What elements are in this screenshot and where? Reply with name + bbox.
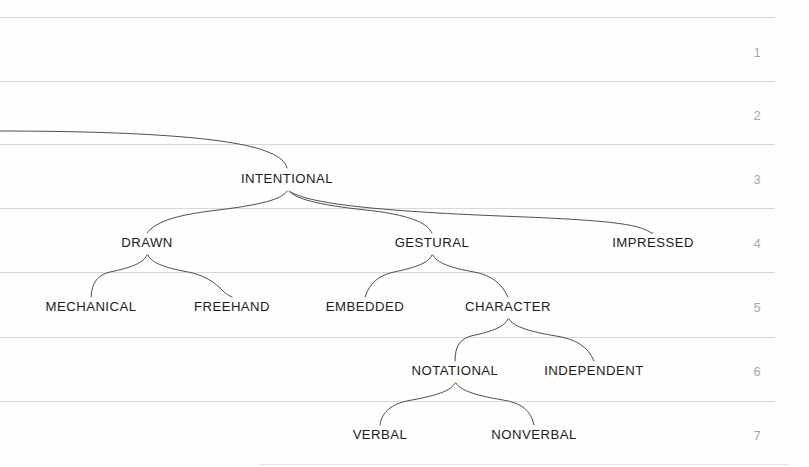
row-numbers-group: 1234567 xyxy=(753,45,760,443)
row-number-2: 2 xyxy=(753,108,760,123)
edge-intentional-drawn xyxy=(147,191,287,233)
row-number-4: 4 xyxy=(753,236,760,251)
tree-node-verbal[interactable]: VERBAL xyxy=(353,427,408,442)
tree-node-independent[interactable]: INDEPENDENT xyxy=(544,363,643,378)
tree-node-mechanical[interactable]: MECHANICAL xyxy=(46,299,137,314)
edge-root-intentional xyxy=(0,131,287,168)
edge-gestural-character xyxy=(433,255,508,297)
tree-node-freehand[interactable]: FREEHAND xyxy=(194,299,270,314)
row-number-5: 5 xyxy=(753,300,760,315)
edge-drawn-freehand xyxy=(148,255,232,297)
row-number-7: 7 xyxy=(753,428,760,443)
row-number-6: 6 xyxy=(753,364,760,379)
tree-node-character[interactable]: CHARACTER xyxy=(465,299,551,314)
edge-character-notational xyxy=(455,319,508,361)
diagram-page: INTENTIONALDRAWNGESTURALIMPRESSEDMECHANI… xyxy=(0,0,809,467)
tree-node-gestural[interactable]: GESTURAL xyxy=(395,235,470,250)
edge-gestural-embedded xyxy=(365,255,432,297)
tree-node-embedded[interactable]: EMBEDDED xyxy=(326,299,404,314)
tree-diagram-canvas: INTENTIONALDRAWNGESTURALIMPRESSEDMECHANI… xyxy=(0,0,809,467)
edge-drawn-mechanical xyxy=(91,255,147,297)
edge-notational-verbal xyxy=(380,383,455,425)
row-number-3: 3 xyxy=(753,172,760,187)
tree-node-drawn[interactable]: DRAWN xyxy=(121,235,173,250)
tree-node-impressed[interactable]: IMPRESSED xyxy=(612,235,694,250)
edge-intentional-gestural xyxy=(289,191,432,233)
tree-node-intentional[interactable]: INTENTIONAL xyxy=(241,171,333,186)
row-number-1: 1 xyxy=(753,45,760,60)
edge-character-independent xyxy=(509,319,594,361)
tree-node-nonverbal[interactable]: NONVERBAL xyxy=(491,427,576,442)
edge-notational-nonverbal xyxy=(456,383,534,425)
edge-intentional-impressed xyxy=(291,192,653,233)
tree-node-notational[interactable]: NOTATIONAL xyxy=(412,363,499,378)
